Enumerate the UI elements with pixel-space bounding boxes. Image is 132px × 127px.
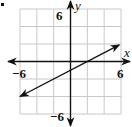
y-axis-label: y xyxy=(73,0,81,13)
x-max-tick-label: 6 xyxy=(117,66,124,81)
y-min-tick-label: −6 xyxy=(50,109,64,124)
x-axis-label: x xyxy=(123,45,130,60)
x-min-tick-label: −6 xyxy=(12,66,26,81)
coordinate-plane: 6 y x −6 6 −6 xyxy=(0,0,132,127)
y-max-tick-label: 6 xyxy=(56,8,63,23)
axes xyxy=(8,1,130,126)
